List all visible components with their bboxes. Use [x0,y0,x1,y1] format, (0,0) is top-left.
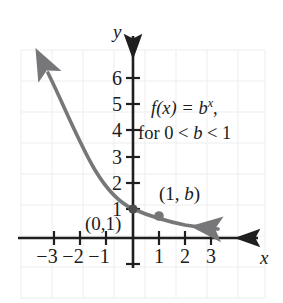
equation-condition-post: < 1 [202,123,231,143]
exponential-decay-graph-figure: 6 5 4 3 2 1 −3 −2 −1 1 2 3 y x f(x) = bx… [0,0,283,303]
equation-for-word: for [138,123,164,143]
x-tick-label-neg3: −3 [34,246,60,266]
point-label-1-b: (1, b) [159,184,200,203]
x-tick-label-1: 1 [150,246,168,266]
equation-line-2: for 0 < b < 1 [138,124,231,143]
equation-comma: , [213,98,218,118]
equation-condition-var: b [193,123,202,143]
x-tick-label-neg2: −2 [60,246,86,266]
point-label-0-1-value: 1 [106,213,116,234]
point-label-0-1-close: ) [115,213,121,234]
y-tick-label-5: 5 [104,94,122,114]
y-tick-label-4: 4 [104,120,122,140]
y-tick-label-6: 6 [104,68,122,88]
x-axis [18,231,258,245]
data-point-0-1 [128,204,137,213]
point-label-0-1: (0,1) [85,214,121,233]
point-label-1-b-var: b [184,183,194,204]
equation-line-1: f(x) = bx, [151,99,218,118]
data-point-1-b [154,211,164,221]
y-tick-label-2: 2 [104,173,122,193]
x-tick-label-2: 2 [176,246,194,266]
point-label-0-1-open: (0, [85,213,106,234]
x-tick-label-neg1: −1 [86,246,112,266]
equation-body: (x) = b [156,98,208,118]
equation-condition-pre: 0 < [164,123,193,143]
point-label-1-b-open: (1, [159,183,184,204]
y-tick-label-3: 3 [104,147,122,167]
y-axis-label: y [113,22,121,41]
x-axis-label: x [260,248,268,267]
y-axis [126,36,140,268]
x-tick-label-3: 3 [202,246,220,266]
point-label-1-b-close: ) [194,183,200,204]
